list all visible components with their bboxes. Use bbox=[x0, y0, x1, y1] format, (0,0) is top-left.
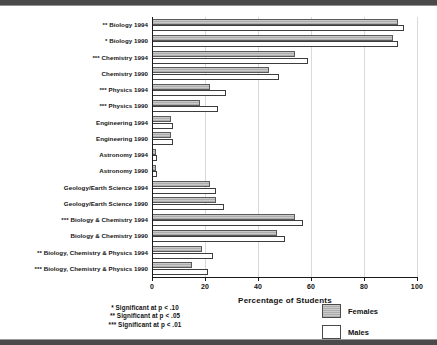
bar-males bbox=[152, 106, 218, 112]
legend-label-females: Females bbox=[348, 307, 378, 316]
x-axis-line bbox=[152, 277, 418, 278]
x-tick bbox=[205, 277, 206, 281]
category-label: * Biology 1990 bbox=[0, 37, 152, 44]
category-label: Chemistry 1990 bbox=[0, 70, 152, 77]
category-label: ** Biology 1994 bbox=[0, 21, 152, 28]
x-tick-label: 100 bbox=[402, 283, 432, 290]
bar-males bbox=[152, 236, 285, 242]
chart-legend: Females Males bbox=[322, 304, 378, 345]
x-tick bbox=[152, 277, 153, 281]
footnote-p01: *** Significant at p < .01 bbox=[0, 321, 290, 329]
x-tick-label: 40 bbox=[243, 283, 273, 290]
bar-females bbox=[152, 262, 192, 268]
bar-females bbox=[152, 67, 269, 73]
category-label: Astronomy 1994 bbox=[0, 151, 152, 158]
x-tick bbox=[417, 277, 418, 281]
bar-males bbox=[152, 74, 279, 80]
x-tick-label: 0 bbox=[137, 283, 167, 290]
y-axis-line bbox=[152, 17, 153, 278]
bar-males bbox=[152, 269, 208, 275]
category-label: *** Biology, Chemistry & Physics 1990 bbox=[0, 265, 152, 272]
horizontal-bar-chart: 020406080100 ** Biology 1994* Biology 19… bbox=[0, 6, 437, 339]
category-label: Geology/Earth Science 1990 bbox=[0, 200, 152, 207]
category-label: Geology/Earth Science 1994 bbox=[0, 184, 152, 191]
bar-males bbox=[152, 58, 308, 64]
bar-females bbox=[152, 214, 295, 220]
bar-females bbox=[152, 35, 393, 41]
legend-label-males: Males bbox=[348, 328, 369, 337]
bar-females bbox=[152, 132, 171, 138]
x-tick-label: 60 bbox=[296, 283, 326, 290]
bar-males bbox=[152, 41, 398, 47]
bar-females bbox=[152, 246, 202, 252]
bar-males bbox=[152, 139, 173, 145]
category-label: *** Physics 1990 bbox=[0, 102, 152, 109]
bar-females bbox=[152, 181, 210, 187]
gridline bbox=[364, 17, 365, 277]
category-label: Astronomy 1990 bbox=[0, 167, 152, 174]
category-label: Engineering 1990 bbox=[0, 135, 152, 142]
bar-males bbox=[152, 123, 173, 129]
bar-females bbox=[152, 19, 398, 25]
females-swatch-icon bbox=[322, 304, 341, 318]
bar-females bbox=[152, 84, 210, 90]
category-label: *** Chemistry 1994 bbox=[0, 54, 152, 61]
footnote-p05: ** Significant at p < .05 bbox=[0, 312, 290, 320]
footnote-p10: * Significant at p < .10 bbox=[0, 304, 290, 312]
bar-females bbox=[152, 197, 216, 203]
category-label: Engineering 1994 bbox=[0, 119, 152, 126]
x-tick-label: 20 bbox=[190, 283, 220, 290]
category-label: Biology & Chemistry 1990 bbox=[0, 232, 152, 239]
bar-males bbox=[152, 25, 404, 31]
bar-females bbox=[152, 230, 277, 236]
bar-males bbox=[152, 90, 226, 96]
legend-item-females: Females bbox=[322, 304, 378, 318]
bar-males bbox=[152, 220, 303, 226]
bar-males bbox=[152, 188, 216, 194]
males-swatch-icon bbox=[322, 325, 341, 339]
legend-item-males: Males bbox=[322, 325, 378, 339]
significance-footnotes: * Significant at p < .10 ** Significant … bbox=[0, 304, 290, 329]
category-label: *** Physics 1994 bbox=[0, 86, 152, 93]
category-label: *** Biology & Chemistry 1994 bbox=[0, 216, 152, 223]
bar-females bbox=[152, 100, 200, 106]
chart-page: 020406080100 ** Biology 1994* Biology 19… bbox=[0, 0, 437, 345]
category-label: ** Biology, Chemistry & Physics 1994 bbox=[0, 249, 152, 256]
x-tick-label: 80 bbox=[349, 283, 379, 290]
gridline bbox=[417, 17, 418, 277]
x-tick bbox=[311, 277, 312, 281]
x-tick bbox=[364, 277, 365, 281]
gridline bbox=[311, 17, 312, 277]
bar-males bbox=[152, 204, 224, 210]
bar-males bbox=[152, 253, 213, 259]
bar-females bbox=[152, 116, 171, 122]
bar-females bbox=[152, 51, 295, 57]
plot-area bbox=[152, 17, 417, 277]
x-tick bbox=[258, 277, 259, 281]
